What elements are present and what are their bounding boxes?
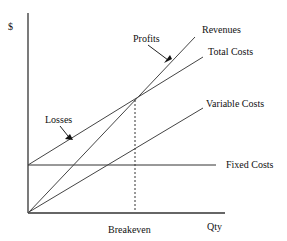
losses-label: Losses xyxy=(45,114,72,125)
variable-costs-label: Variable Costs xyxy=(206,98,264,109)
losses-arrow xyxy=(60,126,68,136)
breakeven-label: Breakeven xyxy=(108,224,151,235)
x-axis-label: Qty xyxy=(207,221,222,232)
y-axis-label: $ xyxy=(8,21,13,32)
profits-arrow xyxy=(148,45,168,60)
profits-label: Profits xyxy=(133,33,160,44)
losses-arrowhead-icon xyxy=(65,134,73,140)
total-costs-label: Total Costs xyxy=(208,46,253,57)
total-costs-line xyxy=(28,57,203,165)
fixed-costs-label: Fixed Costs xyxy=(226,159,274,170)
breakeven-chart: $ Qty Revenues Total Costs Variable Cost… xyxy=(0,0,287,241)
revenues-label: Revenues xyxy=(202,24,241,35)
